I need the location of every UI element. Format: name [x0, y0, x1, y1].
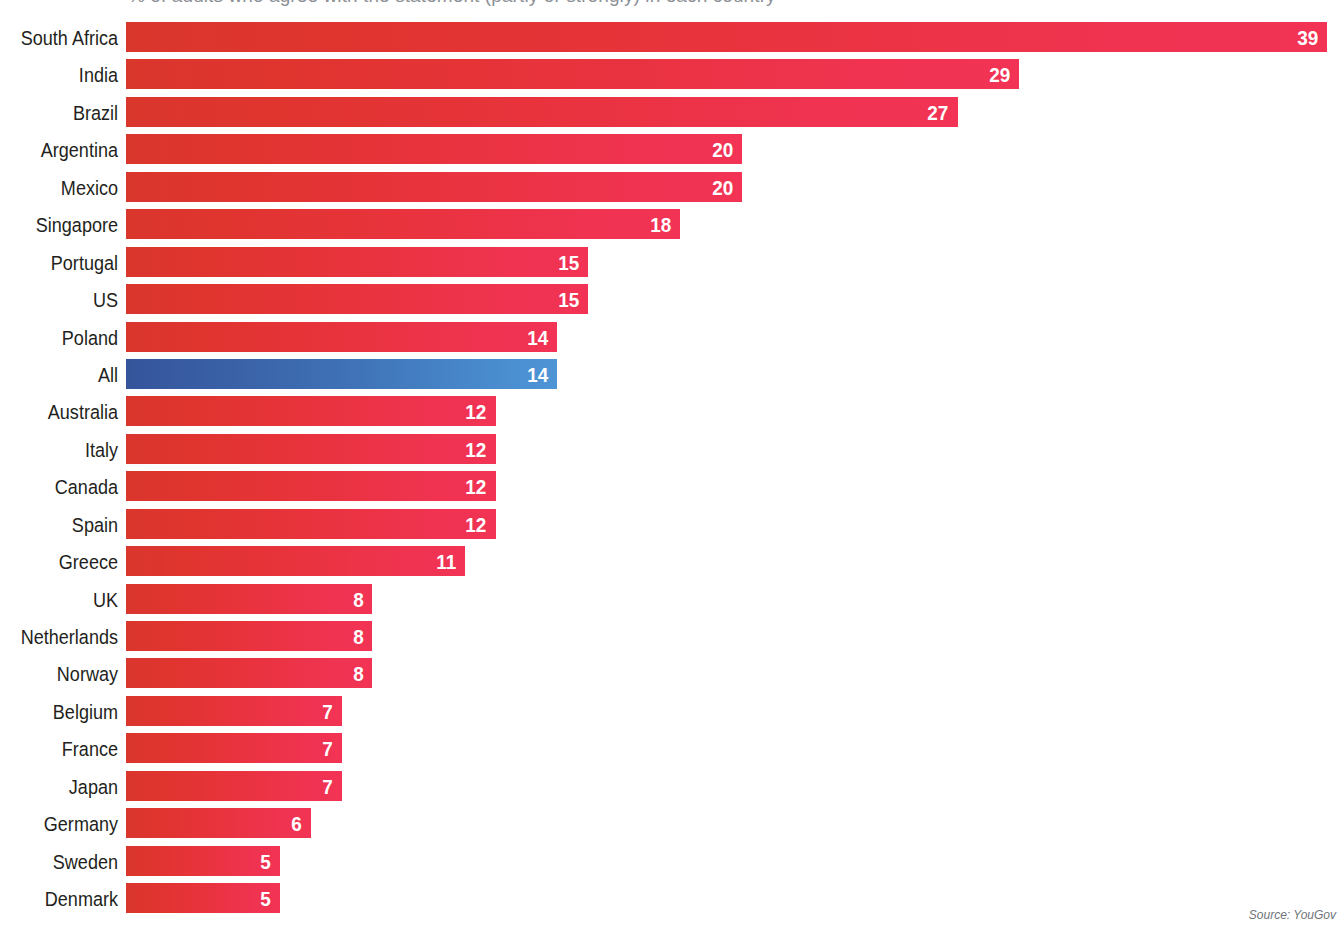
bar-category-label: Netherlands — [14, 621, 118, 651]
bar-value-label: 27 — [928, 97, 949, 127]
bar: 7 — [126, 733, 342, 763]
bar-value-label: 14 — [527, 322, 548, 352]
bar-row: Portugal15 — [0, 247, 1344, 284]
bar-value-label: 29 — [989, 59, 1010, 89]
bar-category-label: Germany — [14, 808, 118, 838]
bar-value-label: 5 — [260, 846, 271, 876]
bar-category-label: Portugal — [14, 247, 118, 277]
bar: 8 — [126, 584, 372, 614]
bar: 7 — [126, 696, 342, 726]
bar-category-label: Norway — [14, 658, 118, 688]
bar-value-label: 12 — [466, 434, 487, 464]
bar: 20 — [126, 134, 742, 164]
bar-value-label: 15 — [558, 247, 579, 277]
bar-value-label: 39 — [1297, 22, 1318, 52]
bar-category-label: Argentina — [14, 134, 118, 164]
bar-value-label: 12 — [466, 471, 487, 501]
bar-value-label: 7 — [322, 696, 333, 726]
bar: 14 — [126, 322, 557, 352]
bar: 27 — [126, 97, 958, 127]
bar-category-label: Singapore — [14, 209, 118, 239]
bar: 12 — [126, 434, 496, 464]
bar-value-label: 7 — [322, 733, 333, 763]
bar-row: Germany6 — [0, 808, 1344, 845]
bar-row: Argentina20 — [0, 134, 1344, 171]
bar: 8 — [126, 658, 372, 688]
bar-category-label: Greece — [14, 546, 118, 576]
bar-value-label: 8 — [353, 584, 364, 614]
bar-value-label: 5 — [260, 883, 271, 913]
bar: 11 — [126, 546, 465, 576]
bar-row: Spain12 — [0, 509, 1344, 546]
bar-row: UK8 — [0, 584, 1344, 621]
bar-row: Poland14 — [0, 322, 1344, 359]
bar-value-label: 8 — [353, 658, 364, 688]
source-note: Source: YouGov — [1249, 908, 1336, 922]
bar-category-label: All — [14, 359, 118, 389]
bar-row: France7 — [0, 733, 1344, 770]
bar: 7 — [126, 771, 342, 801]
horizontal-bar-chart: South Africa39India29Brazil27Argentina20… — [0, 22, 1344, 902]
chart-title-text: % of adults who agree with the statement… — [128, 0, 776, 7]
bar-category-label: South Africa — [14, 22, 118, 52]
bar-category-label: Japan — [14, 771, 118, 801]
bar-category-label: US — [14, 284, 118, 314]
bar-value-label: 20 — [712, 134, 733, 164]
bar: 5 — [126, 883, 280, 913]
bar-value-label: 15 — [558, 284, 579, 314]
bar-value-label: 12 — [466, 509, 487, 539]
bar: 8 — [126, 621, 372, 651]
bar-category-label: Mexico — [14, 172, 118, 202]
bar-category-label: Spain — [14, 509, 118, 539]
bar-value-label: 12 — [466, 396, 487, 426]
bar-highlight: 14 — [126, 359, 557, 389]
bar-value-label: 7 — [322, 771, 333, 801]
bar: 39 — [126, 22, 1327, 52]
bar-category-label: Denmark — [14, 883, 118, 913]
bar-value-label: 6 — [291, 808, 302, 838]
bar-row: All14 — [0, 359, 1344, 396]
bar-row: India29 — [0, 59, 1344, 96]
bar-value-label: 14 — [527, 359, 548, 389]
bar-value-label: 18 — [650, 209, 671, 239]
bar-row: Brazil27 — [0, 97, 1344, 134]
bar-value-label: 8 — [353, 621, 364, 651]
bar-row: Sweden5 — [0, 846, 1344, 883]
bar-row: Australia12 — [0, 396, 1344, 433]
bar-category-label: Belgium — [14, 696, 118, 726]
bar: 15 — [126, 247, 588, 277]
bar-row: Netherlands8 — [0, 621, 1344, 658]
bar: 29 — [126, 59, 1019, 89]
bar-category-label: Sweden — [14, 846, 118, 876]
bar-category-label: Italy — [14, 434, 118, 464]
bar-category-label: Canada — [14, 471, 118, 501]
bar-row: US15 — [0, 284, 1344, 321]
bar-row: Canada12 — [0, 471, 1344, 508]
bar-value-label: 11 — [436, 546, 456, 576]
bar-category-label: France — [14, 733, 118, 763]
bar: 18 — [126, 209, 680, 239]
bar: 12 — [126, 471, 496, 501]
chart-title-sliver: % of adults who agree with the statement… — [0, 0, 1344, 9]
bar: 5 — [126, 846, 280, 876]
bar-row: Singapore18 — [0, 209, 1344, 246]
bar: 20 — [126, 172, 742, 202]
bar-category-label: Poland — [14, 322, 118, 352]
bar-row: Belgium7 — [0, 696, 1344, 733]
bar-category-label: India — [14, 59, 118, 89]
bar-row: Italy12 — [0, 434, 1344, 471]
bar: 15 — [126, 284, 588, 314]
bar-category-label: Brazil — [14, 97, 118, 127]
bar-row: Japan7 — [0, 771, 1344, 808]
bar-row: Denmark5 — [0, 883, 1344, 920]
bar: 12 — [126, 509, 496, 539]
bar-row: Norway8 — [0, 658, 1344, 695]
bar-value-label: 20 — [712, 172, 733, 202]
bar-row: South Africa39 — [0, 22, 1344, 59]
bar: 12 — [126, 396, 496, 426]
bar-row: Greece11 — [0, 546, 1344, 583]
bar-category-label: Australia — [14, 396, 118, 426]
bar: 6 — [126, 808, 311, 838]
bar-row: Mexico20 — [0, 172, 1344, 209]
bar-category-label: UK — [14, 584, 118, 614]
